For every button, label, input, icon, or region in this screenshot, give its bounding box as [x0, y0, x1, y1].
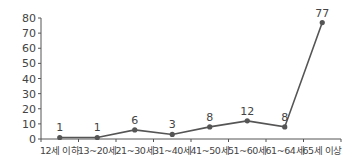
data-label: 1: [56, 121, 63, 134]
y-tick-label: 80: [22, 12, 36, 25]
x-tick-label: 21~30세: [115, 145, 154, 156]
data-point: [282, 124, 287, 129]
y-tick-label: 60: [22, 42, 36, 55]
x-tick-label: 41~50세: [190, 145, 229, 156]
data-label: 8: [281, 111, 288, 124]
y-tick-label: 20: [22, 103, 36, 116]
data-point: [57, 135, 62, 140]
y-tick-label: 0: [29, 133, 36, 146]
data-label: 1: [94, 121, 101, 134]
data-label: 8: [206, 111, 213, 124]
x-tick-label: 13~20세: [78, 145, 117, 156]
y-tick-label: 40: [22, 73, 36, 86]
data-point: [132, 127, 137, 132]
x-tick-label: 31~40세: [153, 145, 192, 156]
data-label: 6: [131, 114, 138, 127]
y-tick-label: 70: [22, 27, 36, 40]
x-tick-label: 12세 이하: [40, 145, 80, 156]
line-chart: 01020304050607080 12세 이하13~20세21~30세31~4…: [0, 0, 359, 164]
x-axis: 12세 이하13~20세21~30세31~40세41~50세51~60세61~6…: [40, 139, 343, 156]
data-point: [170, 132, 175, 137]
x-tick-label: 65세 이상: [302, 145, 342, 156]
data-point: [245, 118, 250, 123]
data-label: 3: [169, 118, 176, 131]
data-point: [95, 135, 100, 140]
data-label: 77: [315, 7, 329, 20]
y-tick-label: 10: [22, 118, 36, 131]
y-axis: 01020304050607080: [22, 12, 41, 146]
data-point: [207, 124, 212, 129]
y-tick-label: 30: [22, 88, 36, 101]
x-tick-label: 61~64세: [265, 145, 304, 156]
x-tick-label: 51~60세: [228, 145, 267, 156]
data-label: 12: [240, 105, 254, 118]
y-tick-label: 50: [22, 57, 36, 70]
data-point: [320, 20, 325, 25]
